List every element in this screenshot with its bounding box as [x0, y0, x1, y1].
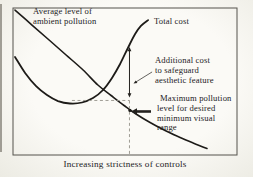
total-cost-curve [15, 20, 148, 104]
pollution-curve-label: Average level of ambient pollution [33, 7, 96, 27]
annotation-leader-line [135, 72, 152, 83]
pollution-cost-diagram: Average level of ambient pollution Total… [0, 0, 253, 177]
leader-arrowhead [134, 80, 138, 83]
max-pollution-annotation: Maximum pollution level for desired mini… [157, 94, 232, 133]
x-axis-label: Increasing strictness of controls [13, 160, 237, 170]
curve-point-dot [128, 109, 131, 112]
additional-cost-line3: aesthetic feature [155, 76, 214, 86]
max-pollution-arrowhead [131, 108, 137, 115]
additional-cost-annotation: Additional cost to safeguard aesthetic f… [155, 56, 214, 85]
total-cost-label: Total cost [154, 17, 189, 27]
pollution-curve-label-line2: ambient pollution [33, 17, 96, 27]
max-pollution-line4: range [157, 123, 232, 133]
additional-cost-arrowhead-bottom [128, 93, 132, 97]
